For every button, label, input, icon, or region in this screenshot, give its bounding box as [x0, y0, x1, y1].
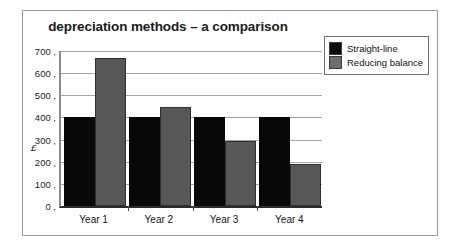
y-axis-tick-label: 500 , — [35, 90, 56, 101]
plot-wrap: 700 ,600 ,500 ,400 ,300 ,200 ,100 ,0 , — [59, 51, 322, 208]
x-axis-tick-label: Year 4 — [257, 214, 322, 225]
plot-area: 700 ,600 ,500 ,400 ,300 ,200 ,100 ,0 , — [59, 51, 322, 208]
bar-group — [193, 51, 258, 206]
legend-item-reducing-balance: Reducing balance — [329, 56, 423, 69]
bar-reducing-balance-year-4[interactable] — [290, 164, 321, 206]
y-axis-tick-label: 200 , — [35, 156, 56, 167]
bar-group — [257, 51, 322, 206]
bar-straight-line-year-3[interactable] — [194, 117, 225, 206]
bar-reducing-balance-year-3[interactable] — [225, 141, 256, 206]
legend-swatch-straight-line — [329, 42, 342, 55]
bar-straight-line-year-1[interactable] — [64, 117, 95, 206]
x-axis-tick-label: Year 3 — [192, 214, 257, 225]
legend-label-reducing-balance: Reducing balance — [347, 57, 423, 68]
x-axis-tick-mark — [128, 206, 129, 211]
y-axis-tick-label: 700 , — [35, 46, 56, 57]
bar-group — [63, 51, 128, 206]
bar-group — [128, 51, 193, 206]
y-axis-tick-label: 400 , — [35, 112, 56, 123]
y-axis-tick-label: 100 , — [35, 178, 56, 189]
bar-straight-line-year-2[interactable] — [129, 117, 160, 206]
bar-straight-line-year-4[interactable] — [259, 117, 290, 206]
y-axis-tick-label: 300 , — [35, 134, 56, 145]
legend-swatch-reducing-balance — [329, 56, 342, 69]
chart-title: depreciation methods – a comparison — [23, 19, 313, 34]
chart-legend: Straight-line Reducing balance — [324, 36, 429, 75]
x-axis-tick-label: Year 2 — [126, 214, 191, 225]
legend-item-straight-line: Straight-line — [329, 42, 423, 55]
chart-frame: depreciation methods – a comparison Stra… — [22, 10, 438, 236]
bar-series-container — [63, 51, 322, 206]
x-axis-tick-mark — [193, 206, 194, 211]
x-axis-tick-labels: Year 1Year 2Year 3Year 4 — [61, 214, 322, 225]
x-axis-tick-mark — [257, 206, 258, 211]
y-axis-tick-label: 600 , — [35, 68, 56, 79]
legend-label-straight-line: Straight-line — [347, 43, 398, 54]
bar-reducing-balance-year-1[interactable] — [95, 58, 126, 206]
x-axis-tick-label: Year 1 — [61, 214, 126, 225]
y-axis-tick-label: 0 , — [45, 201, 56, 212]
bar-reducing-balance-year-2[interactable] — [160, 107, 191, 206]
